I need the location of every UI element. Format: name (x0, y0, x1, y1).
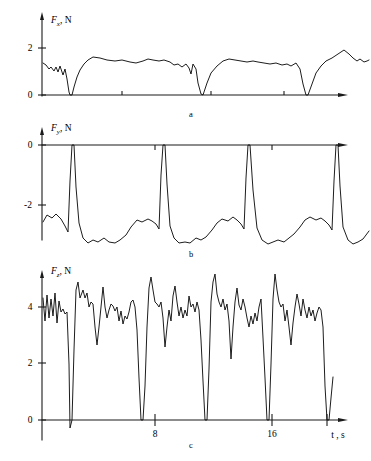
panel-c-y-unit: , N (60, 266, 72, 276)
panel-b-y-axis-arrow (40, 127, 44, 135)
panel-a-letter: a (189, 109, 193, 119)
panel-c-x-axis-label: t , s (331, 430, 345, 440)
figure-svg: 2 0 Fx, N a 0 -2 Fy, N (0, 0, 371, 461)
panel-a: 2 0 Fx, N (28, 12, 369, 100)
panel-b-ytick-label-0: 0 (28, 140, 33, 150)
panel-c-y-axis-label: Fz, N (50, 266, 71, 279)
panel-c-xtick-label-8: 8 (153, 429, 158, 439)
panel-b-axes (38, 127, 348, 240)
panel-b-trace (43, 145, 369, 244)
panel-c-ytick-label-2: 2 (28, 358, 33, 368)
force-time-figure: 2 0 Fx, N a 0 -2 Fy, N (0, 0, 371, 461)
panel-c-y-axis-arrow (40, 270, 44, 278)
panel-a-y-unit: , N (60, 15, 72, 25)
panel-c-letter: c (189, 440, 193, 450)
panel-a-trace (43, 50, 369, 95)
panel-c-ytick-label-4: 4 (28, 302, 33, 312)
panel-c: 0 2 4 8 16 t , s Fz, N (28, 266, 348, 440)
panel-a-ytick-label-0: 0 (28, 90, 33, 100)
panel-b-x-axis-arrow (338, 143, 348, 147)
panel-b-ytick-label-neg2: -2 (24, 200, 32, 210)
panel-c-ytick-label-0: 0 (28, 415, 33, 425)
panel-c-x-axis-arrow (338, 418, 348, 422)
panel-b-y-axis-label: Fy, N (50, 123, 72, 136)
panel-b-y-unit: , N (60, 123, 72, 133)
panel-c-trace (43, 274, 333, 428)
panel-a-y-axis-arrow (40, 12, 44, 20)
svg-text:Fz, N: Fz, N (50, 266, 71, 279)
panel-a-y-axis-label: Fx, N (50, 15, 72, 28)
panel-a-x-axis-arrow (338, 93, 348, 97)
svg-text:Fy, N: Fy, N (50, 123, 72, 136)
panel-c-xtick-label-16: 16 (267, 429, 277, 439)
svg-text:Fx, N: Fx, N (50, 15, 72, 28)
panel-a-axes (38, 12, 348, 97)
panel-b-letter: b (189, 249, 193, 259)
panel-a-ytick-label-2: 2 (28, 43, 33, 53)
panel-b: 0 -2 Fy, N (24, 123, 369, 244)
